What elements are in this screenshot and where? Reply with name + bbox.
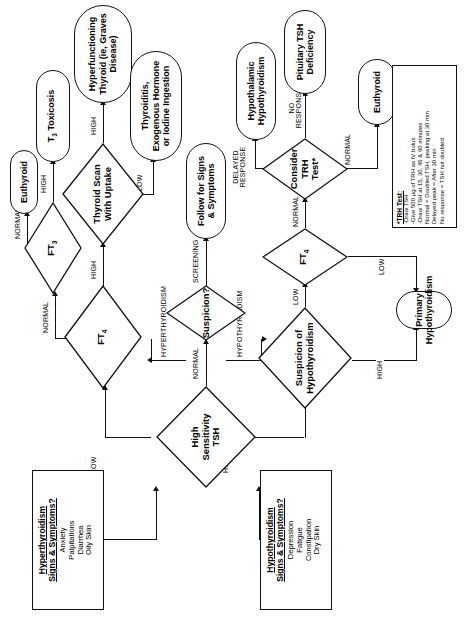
hypo-symptoms-list: Depression Fatigue Constipation Dry Skin — [287, 476, 321, 604]
ft4-lower-decision: FT4 — [262, 228, 348, 286]
arrowhead — [147, 358, 152, 364]
hypothalamic-hypothyroidism-terminator: Hypothalamic Hypothyroidism — [236, 42, 276, 140]
list-item: Dry Skin — [313, 476, 322, 604]
edge-susp-screening — [206, 239, 207, 287]
t3-sub: 3 — [51, 133, 58, 137]
edge-susphypo-low — [305, 285, 306, 307]
follow-signs-symptoms-terminator: Follow for Signs & Symptoms — [186, 143, 226, 239]
ft4l-text: FT — [297, 253, 308, 264]
hf-line2: Thyroid (ie, Graves — [98, 13, 108, 95]
consider-trh-test-decision: Consider TRH Test* — [262, 138, 348, 200]
trh-label: Consider TRH Test* — [289, 149, 321, 190]
ft4-text: FT — [95, 333, 106, 344]
tsh-line3: TSH — [210, 428, 221, 447]
hyperfunctioning-label: Hyperfunctioning Thyroid (ie, Graves Dis… — [87, 13, 118, 95]
edge-trh-delayed-h — [255, 139, 256, 169]
ft4-lower-label: FT4 — [298, 249, 312, 264]
hypothalamic-label: Hypothalamic Hypothyroidism — [246, 57, 267, 126]
edge-susphypo-high-v — [352, 360, 417, 361]
edge-label-low-ft4l: LOW — [378, 257, 386, 276]
ft3-label: FT3 — [46, 240, 60, 255]
flowchart-canvas: LOW NORMAL HIGH HYPERTHYROIDISM HYPOTHYR… — [0, 0, 473, 632]
scan-line2: With Uptake — [102, 167, 113, 221]
trh-test-note-box: *TRH Test: -Draw TSH -Give 500 µg of TRH… — [392, 65, 457, 228]
th-line3: or Iodine Ingestion — [161, 66, 171, 147]
follow-label: Follow for Signs & Symptoms — [196, 156, 217, 226]
edge-tsh-low-h — [105, 388, 106, 438]
toxicosis-text: Toxicosis — [46, 90, 56, 133]
pituitary-tsh-deficiency-terminator: Pituitary TSH Deficiency — [284, 10, 326, 94]
note-line: Normal = Doubled TSH, peaking at 30 min — [424, 69, 431, 224]
edge-ft4l-normal — [305, 200, 306, 228]
euthyroid-bottom-label: Euthyroid — [372, 71, 382, 113]
note-line: -Give 500 µg of TRH as IV bolus — [410, 69, 417, 224]
tsh-label: High Sensitivity TSH — [190, 414, 222, 461]
suspicion-label: Suspicion? — [201, 288, 212, 339]
hyperthyroidism-symptoms-box: Hyperthyroidism Signs & Symptoms? Anxiet… — [32, 470, 104, 610]
ft4l-sub: 4 — [303, 249, 310, 253]
note-line: No response = TSH not doubled — [439, 69, 446, 224]
edge-scan-high — [103, 103, 104, 143]
tsh-line2: Sensitivity — [200, 414, 211, 461]
edge-trh-normal-h — [377, 125, 378, 169]
delayed-line2: RESPONSE — [239, 147, 246, 188]
edge-susp-hyper-v — [152, 360, 186, 361]
ft4-upper-label: FT4 — [96, 329, 110, 344]
hypo-symptoms-title-line1: Hypothyroidism — [265, 476, 275, 604]
note-title: *TRH Test: — [396, 69, 404, 224]
scan-line1: Thyroid Scan — [91, 164, 102, 223]
euthyroid-top-terminator: Euthyroid — [10, 150, 38, 214]
thyroiditis-label: Thyroiditis, Exogenous Hormone or Iodine… — [140, 61, 171, 152]
delayed-line1: DELAYED — [232, 150, 239, 184]
t3-toxicosis-terminator: T3 Toxicosis — [36, 70, 70, 162]
edge-label-low-susphypo: LOW — [292, 287, 300, 306]
edge-tsh-low-v — [106, 437, 151, 438]
edge-susp-hypo-v — [226, 360, 262, 361]
suspicion-of-hypothyroidism-decision: Suspicion of Hypothyroidism — [258, 307, 352, 409]
trh-line1: Consider — [288, 149, 299, 190]
t3-toxicosis-label: T3 Toxicosis — [46, 90, 60, 142]
hf-line3: Disease) — [108, 35, 118, 72]
euthyroid-top-label: Euthyroid — [19, 161, 29, 203]
ph-line2: Hypothyroidism — [424, 276, 434, 345]
edge-ft4-high — [103, 245, 104, 287]
ft3-text: FT — [45, 244, 56, 255]
pt-line2: Deficiency — [305, 30, 315, 75]
note-line: -Draw TSH — [403, 69, 410, 224]
hh-line1: Hypothalamic — [246, 62, 256, 121]
edge-label-delayed-response: DELAYED RESPONSE — [232, 138, 247, 196]
ph-line1: Primary — [414, 293, 424, 327]
hypo-symptoms-title-line2: Signs & Symptoms? — [275, 476, 285, 604]
edge-hypersym-to-tsh-h — [156, 489, 157, 540]
hyper-symptoms-title-line2: Signs & Symptoms? — [47, 476, 57, 604]
trh-line2: TRH — [299, 159, 310, 178]
diagram-canvas-rotor: LOW NORMAL HIGH HYPERTHYROIDISM HYPOTHYR… — [0, 0, 473, 632]
edge-tsh-normal — [206, 342, 207, 386]
susphypo-label: Suspicion of Hypothyroidism — [294, 322, 315, 393]
pituitary-label: Pituitary TSH Deficiency — [295, 24, 316, 81]
noresp-line1: NO — [288, 103, 295, 114]
edge-label-high-scan: HIGH — [90, 116, 98, 136]
hypothyroidism-symptoms-box: Hypothyroidism Signs & Symptoms? Depress… — [260, 470, 332, 610]
note-line: -Draw TSH at 15, 30, 45 & 60 minutes — [417, 69, 424, 224]
primary-hypo-label: Primary Hypothyroidism — [414, 276, 435, 345]
fl-line1: Follow for Signs — [196, 156, 206, 226]
ft4-upper-decision: FT4 — [64, 285, 142, 389]
susphypo-line1: Suspicion of — [293, 330, 304, 386]
edge-trh-noresp — [305, 94, 306, 138]
edge-scan-low-h — [153, 160, 154, 195]
edge-label-screening: SCREENING — [192, 239, 200, 284]
ft4-sub: 4 — [101, 329, 108, 333]
pt-line1: Pituitary TSH — [295, 24, 305, 81]
edge-label-high-ft3: HIGH — [40, 174, 48, 194]
edge-label-normal: NORMAL — [192, 347, 200, 380]
edge-ft3-high — [53, 162, 54, 202]
edge-ft4-normal-h — [55, 294, 56, 339]
edge-label-high-susphypo: HIGH — [376, 360, 384, 380]
th-line2: Exogenous Hormone — [151, 61, 161, 152]
high-sensitivity-tsh-decision: High Sensitivity TSH — [156, 386, 256, 488]
fl-line2: & Symptoms — [206, 164, 216, 219]
hyperfunctioning-thyroid-terminator: Hyperfunctioning Thyroid (ie, Graves Dis… — [74, 5, 132, 103]
thyroiditis-terminator: Thyroiditis, Exogenous Hormone or Iodine… — [130, 51, 182, 161]
edge-label-normal-ft4: NORMAL — [42, 301, 50, 334]
